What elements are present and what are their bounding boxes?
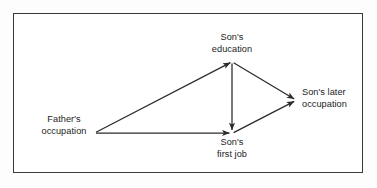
node-father-occupation-line1: Father's <box>33 114 95 126</box>
node-sons-first-job-line2: first job <box>201 149 263 161</box>
edge-father-to-education <box>96 63 230 133</box>
edge-education-to-later-occupation <box>234 63 295 99</box>
node-sons-education-line2: education <box>201 44 263 56</box>
edge-first-job-to-later-occupation <box>234 101 295 132</box>
node-father-occupation-line2: occupation <box>33 126 95 138</box>
node-sons-later-occupation: Son's later occupation <box>302 87 364 110</box>
node-sons-first-job: Son's first job <box>201 137 263 160</box>
node-sons-education: Son's education <box>201 32 263 55</box>
node-sons-education-line1: Son's <box>201 32 263 44</box>
diagram-canvas: Father's occupation Son's education Son'… <box>0 0 377 188</box>
node-sons-later-occupation-line2: occupation <box>302 99 364 111</box>
node-sons-later-occupation-line1: Son's later <box>302 87 364 99</box>
node-sons-first-job-line1: Son's <box>201 137 263 149</box>
node-father-occupation: Father's occupation <box>33 114 95 137</box>
